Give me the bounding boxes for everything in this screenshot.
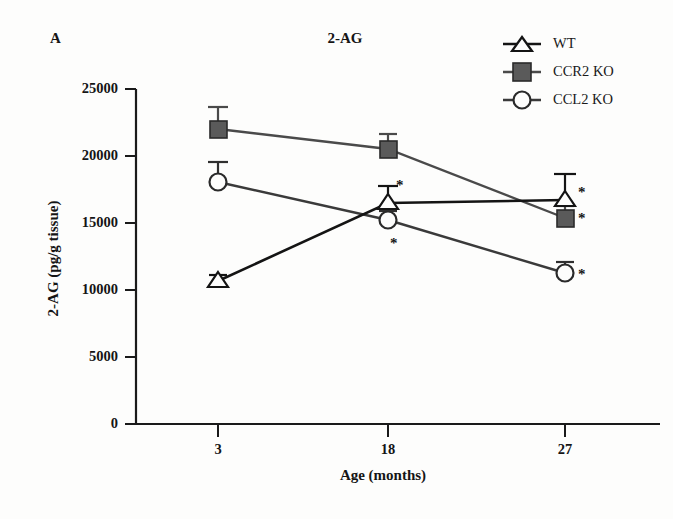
x-tick-label-27: 27 bbox=[545, 441, 585, 458]
significance-star-ccl2-18: * bbox=[390, 236, 398, 251]
x-axis-ticks bbox=[218, 424, 565, 437]
significance-star-ccr2-27: * bbox=[578, 211, 586, 226]
legend-markers bbox=[503, 37, 541, 109]
significance-star-wt-18: * bbox=[396, 178, 404, 193]
y-axis-title: 2-AG (pg/g tissue) bbox=[45, 139, 62, 379]
axis-lines bbox=[136, 89, 660, 424]
y-tick-label-25000: 25000 bbox=[46, 80, 118, 97]
y-axis-ticks bbox=[125, 89, 136, 424]
x-tick-label-3: 3 bbox=[198, 441, 238, 458]
y-tick-label-15000: 15000 bbox=[46, 214, 118, 231]
significance-star-ccl2-27: * bbox=[578, 267, 586, 282]
y-tick-label-10000: 10000 bbox=[46, 281, 118, 298]
legend-item-ccl2-ko: CCL2 KO bbox=[553, 91, 613, 108]
figure-panel-a: A 2-AG 2-AG (pg/g tissue) Age (months) 2… bbox=[0, 0, 673, 519]
legend-item-wt: WT bbox=[553, 35, 576, 52]
x-tick-label-18: 18 bbox=[368, 441, 408, 458]
chart-title: 2-AG bbox=[310, 30, 380, 47]
x-axis-title: Age (months) bbox=[283, 467, 483, 484]
y-tick-label-0: 0 bbox=[46, 415, 118, 432]
legend-item-ccr2-ko: CCR2 KO bbox=[553, 63, 614, 80]
y-tick-label-5000: 5000 bbox=[46, 348, 118, 365]
series-ccl2-ko bbox=[208, 162, 574, 282]
panel-label: A bbox=[50, 30, 61, 47]
y-tick-label-20000: 20000 bbox=[46, 147, 118, 164]
significance-star-wt-27: * bbox=[578, 185, 586, 200]
